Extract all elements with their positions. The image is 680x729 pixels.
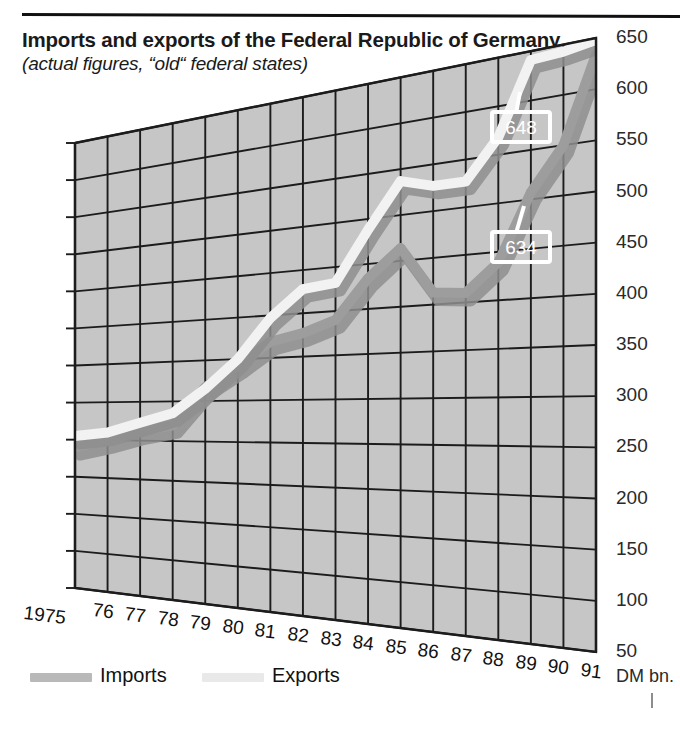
y-axis-tick-label: 300 — [616, 384, 648, 406]
x-axis-tick-label: 87 — [449, 643, 473, 667]
y-axis-tick-label: 250 — [616, 435, 648, 457]
y-axis-tick-label: 100 — [616, 589, 648, 611]
legend-swatch-exports — [202, 673, 264, 682]
y-axis-tick-label: 200 — [616, 487, 648, 509]
x-axis-tick-label: 89 — [514, 651, 538, 675]
legend-label-imports: Imports — [100, 664, 167, 687]
x-axis-tick-label: 88 — [482, 647, 506, 671]
y-axis-tick-label: 500 — [616, 180, 648, 202]
x-axis-tick-label: 77 — [123, 603, 147, 627]
y-axis-tick-label: 150 — [616, 538, 648, 560]
y-axis-tick-label: 450 — [616, 231, 648, 253]
y-axis-tick-label: 400 — [616, 282, 648, 304]
y-axis-tick-label: 650 — [616, 26, 648, 48]
y-axis-tick-label: 550 — [616, 128, 648, 150]
legend-label-exports: Exports — [272, 664, 340, 687]
x-axis-tick-label: 86 — [417, 639, 441, 663]
x-axis-tick-label: 83 — [319, 627, 343, 651]
y-axis-tick-label: 350 — [616, 333, 648, 355]
x-axis-tick-label: 81 — [254, 619, 278, 643]
y-tick-marks — [66, 143, 75, 588]
svg-text:648: 648 — [505, 117, 537, 138]
y-axis-unit-label: DM bn. — [616, 666, 674, 687]
y-axis-tick-label: 600 — [616, 77, 648, 99]
corner-tick-mark — [651, 693, 653, 708]
x-axis-tick-label: 79 — [189, 611, 213, 635]
svg-text:634: 634 — [505, 237, 537, 258]
x-axis-tick-label: 76 — [91, 599, 115, 623]
y-axis-tick-label: 50 — [616, 640, 637, 662]
x-axis-tick-label: 84 — [351, 631, 375, 655]
x-axis-tick-label: 78 — [156, 607, 180, 631]
x-axis-tick-label: 85 — [384, 635, 408, 659]
legend-swatch-imports — [30, 673, 92, 682]
x-axis-tick-label: 80 — [221, 615, 245, 639]
x-axis-tick-label: 91 — [579, 659, 603, 683]
chart-legend: ImportsExports — [30, 662, 360, 692]
x-axis-tick-label: 90 — [547, 655, 571, 679]
x-axis-tick-label: 82 — [286, 623, 310, 647]
